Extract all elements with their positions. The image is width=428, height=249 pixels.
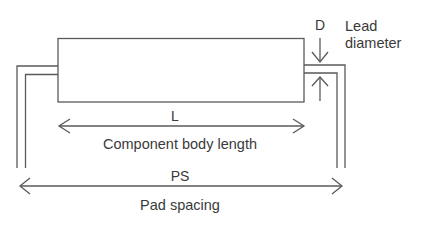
right-lead-outer — [304, 65, 345, 168]
pad-spacing-symbol: PS — [171, 168, 190, 184]
body-length-symbol: L — [171, 108, 179, 124]
component-diagram: L Component body length PS Pad spacing D… — [0, 0, 428, 249]
component-body — [58, 39, 304, 103]
lead-diameter-arrows — [312, 38, 328, 101]
lead-diameter-label-line2: diameter — [345, 35, 402, 51]
lead-diameter-symbol: D — [315, 17, 325, 33]
pad-spacing-label: Pad spacing — [140, 197, 220, 213]
body-length-arrow — [59, 119, 304, 133]
body-length-label: Component body length — [103, 136, 257, 152]
left-lead-inner — [26, 75, 59, 169]
lead-diameter-label-line1: Lead — [345, 18, 377, 34]
left-lead-outer — [17, 66, 58, 168]
